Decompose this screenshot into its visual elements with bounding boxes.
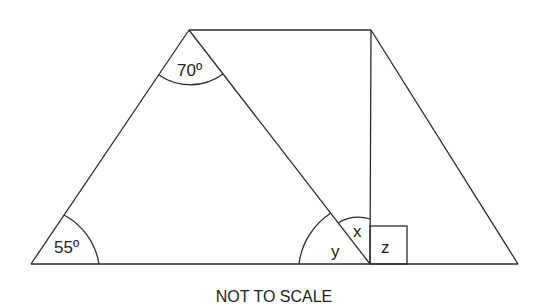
angle-70-label: 70º bbox=[177, 61, 202, 80]
diagonal-line bbox=[189, 30, 370, 264]
geometry-diagram: 55º 70º y x z NOT TO SCALE bbox=[0, 0, 545, 308]
angle-y-label: y bbox=[331, 242, 340, 261]
left-side-line bbox=[31, 30, 189, 264]
caption-not-to-scale: NOT TO SCALE bbox=[216, 288, 332, 305]
angle-y-arc bbox=[299, 213, 331, 264]
angle-x-label: x bbox=[353, 222, 362, 241]
angle-z-label: z bbox=[381, 238, 390, 257]
right-side-line bbox=[371, 30, 518, 264]
angle-55-label: 55º bbox=[54, 238, 79, 257]
